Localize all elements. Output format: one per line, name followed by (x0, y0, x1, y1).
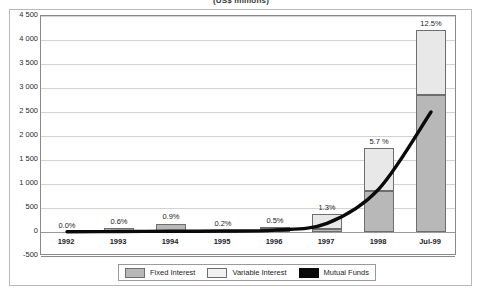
y-axis-tick-label: 0 (2, 227, 38, 235)
x-axis-tick-label: 1998 (352, 237, 404, 247)
bar-data-label: 0.9% (145, 212, 197, 221)
bar-group[interactable] (312, 16, 342, 256)
y-axis-tick-label: 2 500 (2, 107, 38, 115)
bar-segment-fixed-interest[interactable] (104, 228, 134, 232)
plot-inner: 0.0%0.6%0.9%0.2%0.5%1.3%5.7 %12.5% (41, 16, 455, 254)
legend-swatch-fixed (125, 268, 145, 278)
chart-container: (US$ millions) 4 5004 0003 5003 0002 500… (0, 0, 482, 298)
bar-segment-variable-interest[interactable] (260, 227, 290, 229)
x-axis-tick-label: 1997 (300, 237, 352, 247)
bar-segment-variable-interest[interactable] (312, 214, 342, 229)
y-axis-tick-label: 500 (2, 203, 38, 211)
bar-data-label: 0.0% (41, 221, 93, 230)
legend-item[interactable]: Mutual Funds (299, 268, 369, 278)
legend-item[interactable]: Fixed Interest (125, 268, 195, 278)
legend-item[interactable]: Variable Interest (207, 268, 286, 278)
x-axis-tick-label: 1992 (40, 237, 92, 247)
chart-legend: Fixed InterestVariable InterestMutual Fu… (118, 264, 376, 281)
legend-label: Variable Interest (232, 268, 286, 277)
legend-label: Mutual Funds (324, 268, 369, 277)
plot-area: 0.0%0.6%0.9%0.2%0.5%1.3%5.7 %12.5% (40, 15, 456, 255)
bar-data-label: 0.5% (249, 216, 301, 225)
bar-segment-fixed-interest[interactable] (364, 191, 394, 232)
x-axis: 1992199319941995199619971998Jul-99 (40, 237, 456, 251)
bar-segment-fixed-interest[interactable] (156, 224, 186, 232)
y-axis-tick-label: 2 000 (2, 131, 38, 139)
y-axis: 4 5004 0003 5003 0002 5002 0001 5001 000… (0, 15, 38, 255)
y-axis-tick-label: 1 000 (2, 179, 38, 187)
x-axis-tick-label: Jul-99 (404, 237, 456, 247)
y-axis-tick-label: 3 500 (2, 59, 38, 67)
x-axis-tick-label: 1996 (248, 237, 300, 247)
legend-swatch-variable (207, 268, 227, 278)
x-axis-tick-label: 1994 (144, 237, 196, 247)
bar-segment-fixed-interest[interactable] (312, 229, 342, 232)
bar-group[interactable] (364, 16, 394, 256)
bar-data-label: 12.5% (405, 19, 457, 28)
bar-segment-variable-interest[interactable] (416, 30, 446, 95)
bar-data-label: 5.7 % (353, 137, 405, 146)
legend-swatch-mutual (299, 268, 319, 278)
bar-segment-fixed-interest[interactable] (208, 231, 238, 233)
chart-title: (US$ millions) (0, 0, 482, 5)
y-axis-tick-label: 4 500 (2, 11, 38, 19)
y-axis-tick-label: 1 500 (2, 155, 38, 163)
legend-label: Fixed Interest (150, 268, 195, 277)
bar-data-label: 1.3% (301, 203, 353, 212)
y-axis-tick-label: -500 (2, 251, 38, 259)
bar-segment-variable-interest[interactable] (364, 148, 394, 190)
x-axis-tick-label: 1993 (92, 237, 144, 247)
bar-data-label: 0.2% (197, 219, 249, 228)
bar-segment-fixed-interest[interactable] (260, 229, 290, 232)
x-axis-tick-label: 1995 (196, 237, 248, 247)
bar-data-label: 0.6% (93, 217, 145, 226)
y-axis-tick-label: 4 000 (2, 35, 38, 43)
bar-segment-fixed-interest[interactable] (416, 95, 446, 232)
bar-group[interactable] (416, 16, 446, 256)
y-axis-tick-label: 3 000 (2, 83, 38, 91)
